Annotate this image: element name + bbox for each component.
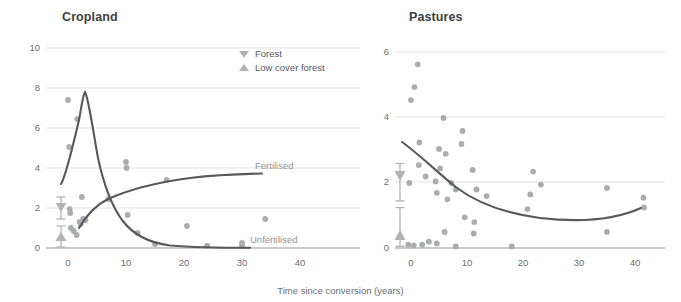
x-axis-ticks-pastures: 0 10 20 30 40 bbox=[408, 257, 640, 268]
ytick-label: 2 bbox=[384, 176, 389, 187]
triangle-up-icon bbox=[56, 232, 67, 241]
triangle-up-icon bbox=[237, 61, 250, 74]
legend-item-forest[interactable]: Forest bbox=[237, 46, 325, 60]
ytick-label: 2 bbox=[35, 202, 40, 213]
error-bar-lowcover-cropland bbox=[56, 226, 67, 247]
panel-pastures: Pastures 6 4 2 0 0 10 20 30 bbox=[375, 0, 681, 302]
ytick-label: 8 bbox=[35, 82, 40, 93]
pastures-plot: 6 4 2 0 0 10 20 30 40 bbox=[375, 0, 681, 302]
ytick-label: 4 bbox=[384, 111, 389, 122]
curve-peak-unfertilised bbox=[61, 92, 250, 248]
legend-label: Forest bbox=[255, 48, 282, 59]
xtick-label: 20 bbox=[518, 257, 529, 268]
legend-label: Low cover forest bbox=[255, 62, 325, 73]
xtick-label: 40 bbox=[630, 257, 641, 268]
y-axis-ticks-cropland: 10 8 6 4 2 0 bbox=[29, 42, 40, 253]
scatter-points-cropland bbox=[65, 97, 268, 249]
xtick-label: 20 bbox=[179, 257, 190, 268]
xtick-label: 0 bbox=[65, 257, 70, 268]
xtick-label: 10 bbox=[462, 257, 473, 268]
figure-root: Cropland 10 8 6 4 2 0 bbox=[0, 0, 681, 302]
ytick-label: 0 bbox=[384, 242, 389, 253]
gridlines-pastures bbox=[395, 52, 665, 182]
ytick-label: 4 bbox=[35, 162, 40, 173]
y-axis-ticks-pastures: 6 4 2 0 bbox=[384, 46, 389, 253]
xtick-label: 0 bbox=[408, 257, 413, 268]
xtick-label: 10 bbox=[121, 257, 132, 268]
xtick-label: 40 bbox=[295, 257, 306, 268]
x-axis-caption: Time since conversion (years) bbox=[0, 285, 681, 296]
error-bar-lowcover-pastures bbox=[395, 208, 406, 247]
ytick-label: 0 bbox=[35, 242, 40, 253]
ytick-label: 10 bbox=[29, 42, 40, 53]
legend: Forest Low cover forest bbox=[237, 46, 325, 74]
curve-fertilised bbox=[79, 174, 262, 229]
xtick-label: 30 bbox=[574, 257, 585, 268]
panel-cropland: Cropland 10 8 6 4 2 0 bbox=[0, 0, 375, 302]
triangle-up-icon bbox=[395, 230, 406, 240]
ytick-label: 6 bbox=[384, 46, 389, 57]
x-axis-ticks-cropland: 0 10 20 30 40 bbox=[65, 257, 305, 268]
triangle-down-icon bbox=[395, 171, 406, 181]
scatter-points-pastures bbox=[405, 61, 647, 249]
legend-item-low-cover-forest[interactable]: Low cover forest bbox=[237, 60, 325, 74]
ytick-label: 6 bbox=[35, 122, 40, 133]
xtick-label: 30 bbox=[237, 257, 248, 268]
triangle-down-icon bbox=[237, 47, 250, 60]
curve-label-fertilised: Fertilised bbox=[255, 160, 294, 171]
curve-label-unfertilised: Unfertilised bbox=[250, 234, 298, 245]
